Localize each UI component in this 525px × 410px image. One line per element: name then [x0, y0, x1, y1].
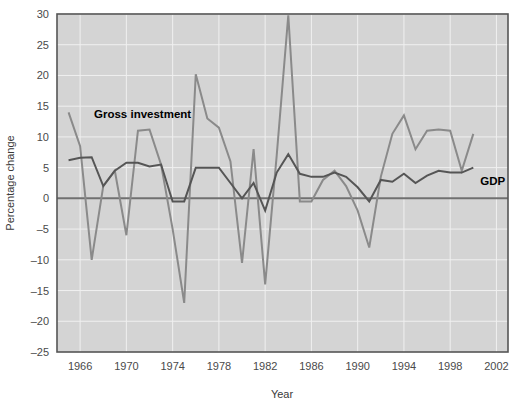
x-tick-label: 1990: [345, 360, 369, 372]
line-chart: –25–20–15–10–5051015202530 1966197019741…: [0, 0, 525, 410]
y-tick-label: 15: [37, 100, 49, 112]
y-tick-label: –20: [31, 315, 49, 327]
x-tick-label: 1986: [299, 360, 323, 372]
y-tick-label: 20: [37, 69, 49, 81]
y-tick-label: –15: [31, 285, 49, 297]
y-tick-label: 0: [43, 192, 49, 204]
x-tick-label: 1994: [392, 360, 416, 372]
y-tick-label: –10: [31, 254, 49, 266]
x-tick-label: 1982: [253, 360, 277, 372]
x-tick-label: 2002: [484, 360, 508, 372]
x-tick-label: 1998: [438, 360, 462, 372]
y-tick-label: 10: [37, 131, 49, 143]
x-tick-label: 1974: [160, 360, 184, 372]
y-axis-title: Percentage change: [4, 135, 16, 230]
y-tick-label: –25: [31, 346, 49, 358]
x-tick-label: 1966: [68, 360, 92, 372]
plot-area-background: [57, 14, 508, 352]
series-label-gdp: GDP: [480, 175, 505, 187]
y-tick-label: 30: [37, 8, 49, 20]
y-tick-label: 5: [43, 162, 49, 174]
x-tick-label: 1970: [114, 360, 138, 372]
y-tick-label: –5: [37, 223, 49, 235]
x-axis-title: Year: [271, 388, 294, 400]
chart-figure: –25–20–15–10–5051015202530 1966197019741…: [0, 0, 525, 410]
series-label-gross-investment: Gross investment: [94, 108, 191, 120]
x-tick-label: 1978: [207, 360, 231, 372]
y-tick-label: 25: [37, 39, 49, 51]
